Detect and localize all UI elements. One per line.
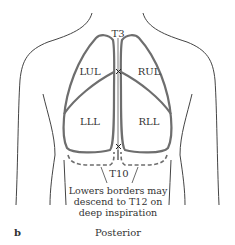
note-line-2: descend to T12 on (74, 196, 163, 207)
pointer-line-left (101, 167, 107, 183)
t3-label: T3 (111, 28, 124, 39)
note-line-1: Lowers borders may (69, 185, 168, 196)
note-line-3: deep inspiration (79, 207, 157, 218)
deep-inspiration-border (68, 152, 167, 165)
lobe-lll-label: LLL (80, 116, 100, 127)
left-lung (64, 35, 115, 152)
panel-letter: b (14, 227, 21, 238)
lobe-rul-label: RUL (138, 66, 161, 77)
posterior-lung-diagram: T3 LUL RUL LLL RLL T10 Lowers borders ma… (0, 0, 235, 245)
lobe-rll-label: RLL (139, 116, 160, 127)
lobe-lul-label: LUL (79, 66, 101, 77)
t10-marker (116, 144, 121, 149)
view-label: Posterior (95, 227, 141, 238)
right-lung (121, 35, 172, 152)
pointer-line-right (132, 167, 138, 183)
t10-label: T10 (109, 168, 128, 179)
